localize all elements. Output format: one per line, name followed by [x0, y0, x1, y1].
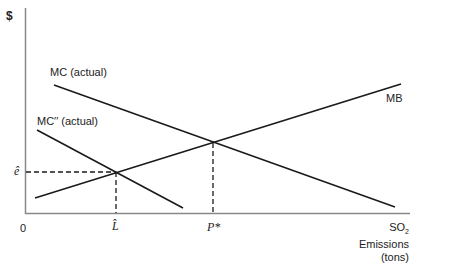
mc-actual-curve	[54, 85, 395, 207]
y-axis-label: $	[6, 10, 13, 22]
x-axis-label-emissions: Emissions	[359, 238, 409, 251]
x-axis-label-sub: 2	[405, 228, 409, 235]
mb-label: MB	[386, 93, 403, 104]
mc-actual-label: MC (actual)	[50, 67, 107, 78]
mc-double-prime-curve	[37, 130, 183, 208]
origin-label: 0	[20, 223, 26, 234]
x-axis-label-units: (tons)	[359, 251, 409, 264]
p-star-label: P*	[207, 221, 220, 233]
mb-curve	[35, 84, 401, 198]
x-axis-label-so: SO	[389, 221, 405, 233]
x-axis-label: SO2 Emissions (tons)	[359, 221, 409, 264]
e-hat-label: ê	[14, 165, 19, 177]
l-hat-label: L̂	[112, 220, 119, 232]
mc-double-prime-label: MC′′ (actual)	[37, 116, 98, 127]
